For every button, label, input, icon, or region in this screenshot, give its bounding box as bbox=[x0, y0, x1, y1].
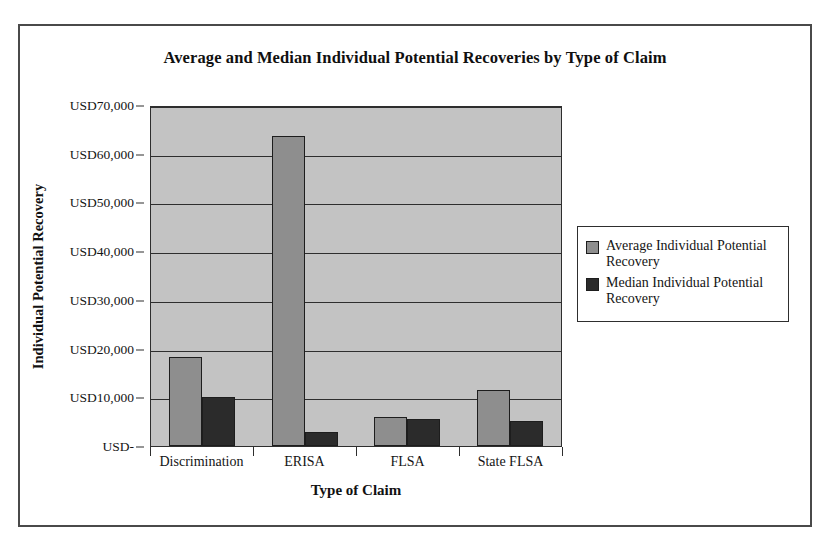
x-tick-mark bbox=[562, 447, 563, 456]
bar-group bbox=[356, 107, 459, 446]
legend-item[interactable]: Median Individual Potential Recovery bbox=[584, 275, 782, 306]
y-tick-mark bbox=[136, 106, 144, 107]
bar[interactable] bbox=[169, 357, 202, 446]
bar[interactable] bbox=[407, 419, 440, 446]
y-tick-mark bbox=[136, 349, 144, 350]
y-axis-title-label: Individual Potential Recovery bbox=[31, 184, 48, 369]
y-tick-mark bbox=[136, 252, 144, 253]
y-axis-title: Individual Potential Recovery bbox=[28, 106, 50, 447]
y-tick-label: USD30,000 bbox=[70, 293, 134, 309]
y-tick-mark bbox=[136, 300, 144, 301]
bar[interactable] bbox=[477, 390, 510, 446]
y-tick-label: USD50,000 bbox=[70, 195, 134, 211]
bar[interactable] bbox=[374, 417, 407, 446]
x-axis-tick-labels: DiscriminationERISAFLSAState FLSA bbox=[150, 454, 562, 470]
plot-area bbox=[150, 106, 562, 447]
y-tick-label: USD10,000 bbox=[70, 390, 134, 406]
bar[interactable] bbox=[202, 397, 235, 446]
legend-swatch-icon bbox=[586, 241, 599, 254]
y-tick-label: USD40,000 bbox=[70, 244, 134, 260]
y-tick-mark bbox=[136, 447, 144, 448]
x-tick-label: ERISA bbox=[253, 454, 356, 470]
y-tick-label: USD70,000 bbox=[70, 98, 134, 114]
bar-group bbox=[151, 107, 254, 446]
x-tick-label: FLSA bbox=[356, 454, 459, 470]
chart-legend: Average Individual Potential RecoveryMed… bbox=[577, 226, 789, 322]
y-tick-mark bbox=[136, 154, 144, 155]
bar[interactable] bbox=[305, 432, 338, 446]
chart-title: Average and Median Individual Potential … bbox=[20, 48, 810, 68]
bar-group bbox=[459, 107, 562, 446]
x-axis-title: Type of Claim bbox=[150, 482, 562, 499]
x-tick-label: Discrimination bbox=[150, 454, 253, 470]
figure-frame: Average and Median Individual Potential … bbox=[18, 24, 812, 527]
x-tick-label: State FLSA bbox=[459, 454, 562, 470]
y-tick-label: USD- bbox=[102, 439, 134, 455]
bar-group bbox=[254, 107, 357, 446]
legend-label: Average Individual Potential Recovery bbox=[606, 238, 782, 269]
legend-item[interactable]: Average Individual Potential Recovery bbox=[584, 238, 782, 269]
y-tick-mark bbox=[136, 203, 144, 204]
bar[interactable] bbox=[272, 136, 305, 446]
y-tick-mark bbox=[136, 398, 144, 399]
bar[interactable] bbox=[510, 421, 543, 446]
y-tick-label: USD60,000 bbox=[70, 147, 134, 163]
bars-layer bbox=[151, 107, 561, 446]
legend-label: Median Individual Potential Recovery bbox=[606, 275, 782, 306]
legend-swatch-icon bbox=[586, 278, 599, 291]
y-axis-tick-labels: USD-USD10,000USD20,000USD30,000USD40,000… bbox=[52, 106, 144, 447]
y-tick-label: USD20,000 bbox=[70, 342, 134, 358]
